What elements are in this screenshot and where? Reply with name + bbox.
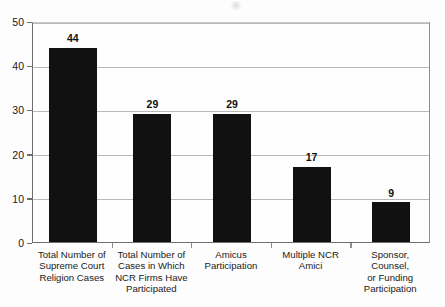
category-label-line: Participation xyxy=(351,283,429,294)
y-tick-label-50: 50 xyxy=(0,17,24,28)
bar-value-label: 9 xyxy=(358,188,424,199)
x-tick-mark xyxy=(350,243,351,248)
category-label-line: Participated xyxy=(113,283,191,294)
y-tick-label-20: 20 xyxy=(0,150,24,161)
bar[interactable] xyxy=(293,167,331,242)
category-label-line: Total Number of xyxy=(113,249,191,260)
category-label: Sponsor, Counsel,or FundingParticipation xyxy=(350,249,430,295)
y-tick-label-40: 40 xyxy=(0,61,24,72)
plot-area: 442929179 xyxy=(32,22,430,243)
category-label-line: NCR Firms Have xyxy=(113,272,191,283)
category-label-line: or Funding xyxy=(351,272,429,283)
category-label-line: Cases in Which xyxy=(113,260,191,271)
category-label-line: Sponsor, Counsel, xyxy=(351,249,429,272)
bar-group[interactable]: 29 xyxy=(133,21,171,242)
bar-value-label: 29 xyxy=(119,99,185,110)
category-label-line: Participation xyxy=(192,260,270,271)
category-label-line: Amicus xyxy=(192,249,270,260)
bar-group[interactable]: 9 xyxy=(372,21,410,242)
y-tick-label-30: 30 xyxy=(0,105,24,116)
y-tick-label-0: 0 xyxy=(0,238,24,249)
scan-artifact xyxy=(229,1,243,10)
bar-group[interactable]: 29 xyxy=(213,21,251,242)
y-tick-label-10: 10 xyxy=(0,194,24,205)
category-labels: Total Number ofSupreme CourtReligion Cas… xyxy=(32,249,430,295)
category-label-line: Total Number of xyxy=(33,249,111,260)
bar[interactable] xyxy=(372,202,410,242)
x-tick-mark xyxy=(112,243,113,248)
bar-value-label: 29 xyxy=(199,99,265,110)
bar[interactable] xyxy=(213,114,251,242)
bar[interactable] xyxy=(133,114,171,242)
category-label: Total Number ofCases in WhichNCR Firms H… xyxy=(112,249,192,295)
bar-chart: 01020304050 442929179 Total Number ofSup… xyxy=(0,0,445,307)
bar-group[interactable]: 44 xyxy=(49,21,97,242)
x-tick-mark xyxy=(191,243,192,248)
category-label: AmicusParticipation xyxy=(191,249,271,295)
category-label-line: Supreme Court xyxy=(33,260,111,271)
bar[interactable] xyxy=(49,48,97,242)
bar-value-label: 44 xyxy=(35,33,111,44)
bars-layer: 442929179 xyxy=(33,23,429,242)
x-tick-mark xyxy=(271,243,272,248)
category-label-line: Amici xyxy=(272,260,350,271)
category-label-line: Religion Cases xyxy=(33,272,111,283)
bar-group[interactable]: 17 xyxy=(293,21,331,242)
category-label-line: Multiple NCR xyxy=(272,249,350,260)
bar-value-label: 17 xyxy=(279,152,345,163)
category-label: Multiple NCRAmici xyxy=(271,249,351,295)
category-label: Total Number ofSupreme CourtReligion Cas… xyxy=(32,249,112,295)
